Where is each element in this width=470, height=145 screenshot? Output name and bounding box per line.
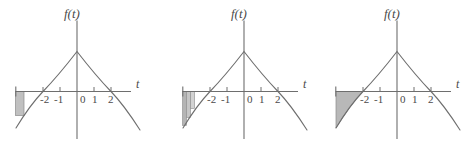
three-panel-parabola-figure: -2 -1 0 1 2 f(t) t	[0, 0, 470, 145]
tick-label-1: 1	[412, 93, 418, 105]
parabola-curve	[16, 52, 140, 131]
shaded-rectangle-3	[191, 92, 195, 109]
tick-label-2: 2	[108, 93, 114, 105]
tick-label-1: 1	[259, 93, 265, 105]
tick-label-2: 2	[428, 93, 434, 105]
panel-1: -2 -1 0 1 2 f(t) t	[0, 0, 155, 145]
shaded-rectangle-1	[183, 92, 187, 126]
panel-3: -2 -1 0 1 2 f(t) t	[310, 0, 465, 145]
tick-label-minus1: -1	[374, 93, 383, 105]
tick-label-0: 0	[400, 93, 406, 105]
tick-label-minus2: -2	[360, 93, 369, 105]
y-axis-label: f(t)	[231, 6, 247, 21]
x-axis-label: t	[303, 77, 307, 91]
panel-1-plot: -2 -1 0 1 2 f(t) t	[0, 0, 155, 145]
x-axis-label: t	[136, 77, 140, 91]
tick-label-minus2: -2	[207, 93, 216, 105]
tick-label-2: 2	[275, 93, 281, 105]
tick-label-1: 1	[92, 93, 98, 105]
panel-3-plot: -2 -1 0 1 2 f(t) t	[310, 0, 470, 145]
shaded-rectangle	[16, 92, 25, 116]
tick-label-0: 0	[247, 93, 253, 105]
tick-label-minus2: -2	[40, 93, 49, 105]
y-axis-label: f(t)	[64, 6, 80, 21]
parabola-curve	[336, 52, 460, 131]
y-axis-label: f(t)	[384, 6, 400, 21]
tick-label-minus1: -1	[221, 93, 230, 105]
shaded-rectangle-2	[187, 92, 191, 118]
tick-label-0: 0	[80, 93, 86, 105]
parabola-curve	[183, 52, 307, 131]
panel-2: -2 -1 0 1 2 f(t) t	[155, 0, 310, 145]
tick-label-minus1: -1	[54, 93, 63, 105]
panel-2-plot: -2 -1 0 1 2 f(t) t	[155, 0, 310, 145]
x-axis-label: t	[456, 77, 460, 91]
